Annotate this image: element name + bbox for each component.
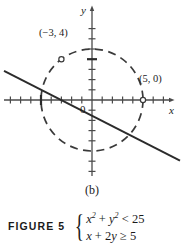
inequality-system: { x2 + y2 < 25 x + 2y ≥ 5 (72, 208, 144, 243)
coordinate-graph (0, 0, 184, 182)
system-equations: x2 + y2 < 25 x + 2y ≥ 5 (86, 208, 144, 243)
intersection-point-left-label: (−3, 4) (39, 27, 68, 39)
inequality-circle: x2 + y2 < 25 (86, 208, 144, 227)
intersection-point-left-marker (59, 57, 64, 62)
intersection-point-right-marker (140, 97, 145, 102)
figure-number-label: FIGURE 5 (0, 220, 65, 232)
intersection-point-right-label: (5, 0) (139, 73, 162, 85)
figure-caption: FIGURE 5 { x2 + y2 < 25 x + 2y ≥ 5 (0, 208, 184, 244)
system-brace: { (75, 211, 84, 242)
x-axis-label: x (169, 104, 174, 116)
panel-label: (b) (0, 183, 184, 197)
inequality-line: x + 2y ≥ 5 (86, 229, 144, 244)
y-axis-label: y (81, 4, 86, 16)
origin-label: 0 (80, 103, 86, 115)
figure-container: (−3, 4) (5, 0) 0 x y (b) FIGURE 5 { x2 +… (0, 0, 184, 245)
